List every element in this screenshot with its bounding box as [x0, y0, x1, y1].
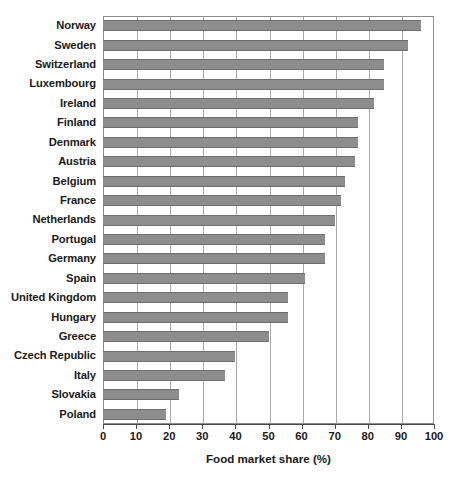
x-axis-tick-label: 0	[100, 431, 106, 442]
food-market-share-bar-chart: NorwaySwedenSwitzerlandLuxembourgIreland…	[0, 0, 459, 484]
x-axis-tick	[235, 424, 236, 429]
category-axis-label: Greece	[0, 331, 96, 342]
category-axis-label: Finland	[0, 117, 96, 128]
bar	[103, 292, 288, 303]
bar	[103, 20, 421, 31]
bar	[103, 176, 345, 187]
x-axis-tick-label: 10	[130, 431, 142, 442]
category-axis-label: Italy	[0, 370, 96, 381]
x-axis-tick-label: 20	[163, 431, 175, 442]
x-axis-tick	[269, 424, 270, 429]
bar	[103, 234, 325, 245]
x-axis-tick	[335, 424, 336, 429]
x-axis-tick-label: 80	[362, 431, 374, 442]
category-axis-label: Switzerland	[0, 59, 96, 70]
x-axis-tick	[103, 424, 104, 429]
bar	[103, 156, 355, 167]
category-axis-label: Luxembourg	[0, 78, 96, 89]
category-axis-label: France	[0, 195, 96, 206]
x-axis-tick-label: 100	[425, 431, 444, 442]
category-axis-label: United Kingdom	[0, 292, 96, 303]
category-axis-label: Hungary	[0, 312, 96, 323]
category-axis-label: Poland	[0, 409, 96, 420]
x-axis-tick	[434, 424, 435, 429]
x-axis-tick-label: 30	[196, 431, 208, 442]
x-axis-tick-label: 60	[295, 431, 307, 442]
bar	[103, 98, 374, 109]
x-axis-tick	[202, 424, 203, 429]
bar	[103, 331, 269, 342]
x-axis-tick-label: 70	[328, 431, 340, 442]
bars-layer	[103, 16, 434, 424]
x-axis-tick	[302, 424, 303, 429]
category-axis-label: Slovakia	[0, 389, 96, 400]
bar	[103, 195, 341, 206]
bar	[103, 389, 179, 400]
category-axis-label: Denmark	[0, 137, 96, 148]
category-axis-label: Netherlands	[0, 214, 96, 225]
bar	[103, 312, 288, 323]
category-axis-label: Germany	[0, 253, 96, 264]
bar	[103, 370, 225, 381]
category-axis-label: Portugal	[0, 234, 96, 245]
bar	[103, 40, 408, 51]
x-axis-tick	[368, 424, 369, 429]
bar	[103, 117, 358, 128]
category-axis-labels: NorwaySwedenSwitzerlandLuxembourgIreland…	[0, 16, 96, 424]
x-axis-tick	[169, 424, 170, 429]
category-axis-label: Spain	[0, 273, 96, 284]
bar	[103, 215, 335, 226]
category-axis-label: Ireland	[0, 98, 96, 109]
bar	[103, 351, 235, 362]
bar	[103, 59, 384, 70]
category-axis-label: Czech Republic	[0, 350, 96, 361]
category-axis-label: Austria	[0, 156, 96, 167]
bar	[103, 273, 305, 284]
x-axis-tick	[136, 424, 137, 429]
x-axis-tick-label: 50	[262, 431, 274, 442]
category-axis-label: Sweden	[0, 40, 96, 51]
category-axis-label: Belgium	[0, 176, 96, 187]
bar	[103, 137, 358, 148]
x-axis-tick-label: 40	[229, 431, 241, 442]
category-axis-label: Norway	[0, 20, 96, 31]
x-axis-tick	[401, 424, 402, 429]
bar	[103, 253, 325, 264]
bar	[103, 79, 384, 90]
x-axis-title: Food market share (%)	[103, 452, 434, 465]
bar	[103, 409, 166, 420]
x-axis-tick-label: 90	[395, 431, 407, 442]
